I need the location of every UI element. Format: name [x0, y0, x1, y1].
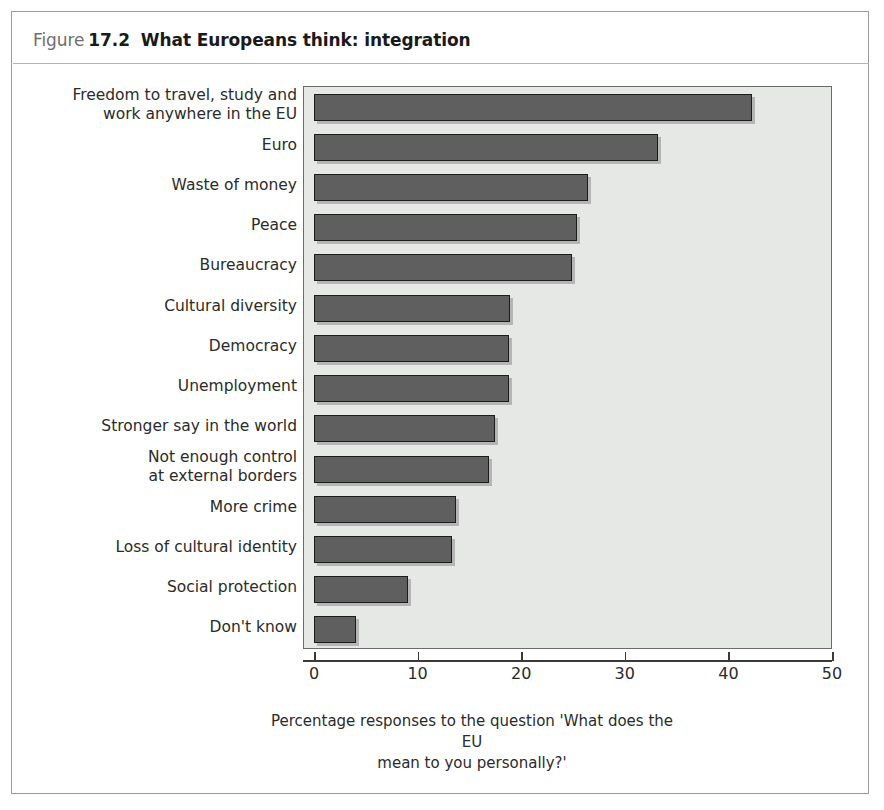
- x-axis-tick: [832, 652, 834, 661]
- bar[interactable]: [314, 174, 588, 201]
- bar[interactable]: [314, 134, 658, 161]
- bar[interactable]: [314, 576, 408, 603]
- x-axis-tick: [625, 652, 627, 661]
- bar-row: [303, 94, 832, 121]
- x-axis-tick: [728, 652, 730, 661]
- category-label: Social protection: [32, 578, 297, 597]
- category-label: Peace: [32, 216, 297, 235]
- bars-layer: [303, 86, 832, 649]
- bar-row: [303, 456, 832, 483]
- bar[interactable]: [314, 214, 577, 241]
- bar[interactable]: [314, 94, 752, 121]
- x-axis-caption-line-2: mean to you personally?': [377, 754, 566, 772]
- bar-row: [303, 576, 832, 603]
- bar-row: [303, 415, 832, 442]
- x-axis-caption-line-1: Percentage responses to the question 'Wh…: [271, 712, 673, 751]
- bar-row: [303, 616, 832, 643]
- category-label: Waste of money: [32, 176, 297, 195]
- x-axis-tick-label: 30: [615, 664, 635, 683]
- category-axis-labels: Freedom to travel, study and work anywhe…: [32, 86, 297, 649]
- category-label: Euro: [32, 136, 297, 155]
- bar-row: [303, 254, 832, 281]
- bar[interactable]: [314, 375, 509, 402]
- bar-row: [303, 496, 832, 523]
- x-axis-line: [303, 660, 832, 662]
- x-axis-tick-label: 40: [718, 664, 738, 683]
- category-label: Freedom to travel, study and work anywhe…: [32, 86, 297, 124]
- bar[interactable]: [314, 335, 509, 362]
- x-axis-tick-label: 10: [407, 664, 427, 683]
- x-axis-tick: [418, 652, 420, 661]
- bar-row: [303, 214, 832, 241]
- x-axis-tick: [314, 652, 316, 661]
- bar-row: [303, 375, 832, 402]
- bar[interactable]: [314, 415, 495, 442]
- category-label: Loss of cultural identity: [32, 538, 297, 557]
- bar[interactable]: [314, 496, 456, 523]
- bar-row: [303, 335, 832, 362]
- category-label: Cultural diversity: [32, 297, 297, 316]
- category-label: Unemployment: [32, 377, 297, 396]
- bar[interactable]: [314, 536, 452, 563]
- bar[interactable]: [314, 295, 510, 322]
- x-axis-tick-label: 20: [511, 664, 531, 683]
- category-label: Not enough control at external borders: [32, 448, 297, 486]
- bar-chart: Freedom to travel, study and work anywhe…: [12, 12, 870, 795]
- category-label: Stronger say in the world: [32, 417, 297, 436]
- x-axis-tick: [521, 652, 523, 661]
- bar-row: [303, 174, 832, 201]
- bar-row: [303, 295, 832, 322]
- bar-row: [303, 536, 832, 563]
- bar[interactable]: [314, 616, 356, 643]
- x-axis-caption: Percentage responses to the question 'Wh…: [262, 711, 682, 774]
- category-label: Bureaucracy: [32, 256, 297, 275]
- figure-frame: Figure17.2What Europeans think: integrat…: [11, 11, 869, 794]
- category-label: Don't know: [32, 618, 297, 637]
- x-axis-tick-label: 0: [309, 664, 319, 683]
- category-label: More crime: [32, 498, 297, 517]
- bar[interactable]: [314, 456, 489, 483]
- x-axis-tick-label: 50: [822, 664, 842, 683]
- category-label: Democracy: [32, 337, 297, 356]
- bar-row: [303, 134, 832, 161]
- bar[interactable]: [314, 254, 572, 281]
